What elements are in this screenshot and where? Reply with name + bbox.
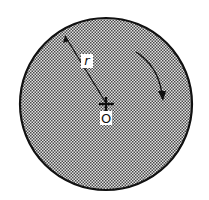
radius-label: r [81,53,93,68]
center-label: O [100,111,112,126]
svg-text:O: O [101,111,111,126]
rotating-disk-diagram: r O [0,0,209,200]
